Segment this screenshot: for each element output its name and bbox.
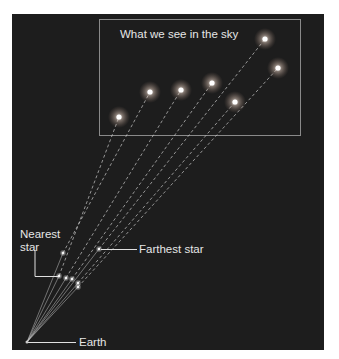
label-leaders: [28, 250, 137, 343]
sight-line: [27, 283, 78, 342]
near-star-icon: [60, 250, 67, 257]
sight-line: [27, 249, 99, 342]
sight-line: [27, 253, 63, 342]
projection-line: [99, 39, 265, 249]
sight-line: [27, 276, 59, 342]
parallax-diagram: [0, 0, 339, 359]
sky-star-icon: [224, 91, 246, 113]
earth-label: Earth: [79, 336, 107, 349]
sight-line: [27, 287, 78, 342]
farthest-star-label: Farthest star: [139, 243, 204, 256]
sight-line: [27, 279, 72, 342]
earth-marker: [26, 341, 29, 344]
sight-line: [27, 278, 66, 342]
sky-star-icon: [254, 28, 276, 50]
sky-star-icon: [201, 72, 223, 94]
near-star-icon: [63, 275, 70, 282]
nearest-star-label-line1: Nearest: [20, 228, 60, 241]
sky-star-icon: [139, 81, 161, 103]
nearest-star-label-line2: star: [20, 241, 60, 254]
sky-stars: [108, 28, 289, 128]
near-star-icon: [69, 276, 76, 283]
sky-title: What we see in the sky: [120, 28, 238, 41]
sky-star-icon: [108, 106, 130, 128]
projection-line: [63, 92, 150, 253]
near-star-icon: [75, 284, 82, 291]
projection-line: [59, 117, 119, 276]
sky-star-icon: [170, 79, 192, 101]
sky-star-icon: [267, 57, 289, 79]
sight-lines: [27, 249, 99, 342]
nearest-star-label: Nearest star: [20, 228, 60, 254]
